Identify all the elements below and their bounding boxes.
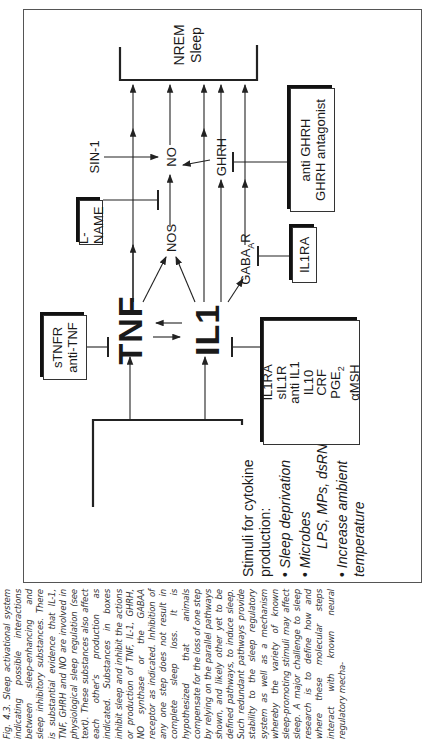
rotated-page: Fig. 4.3. Sleep activational system indi… xyxy=(0,0,431,745)
inhibitor-box-ghrh: anti GHRH GHRH antagonist xyxy=(290,88,335,212)
stimuli-title: Stimuli for cytokine production: xyxy=(240,427,274,577)
stimulus-microbe-types: LPS, MPs, dsRNA xyxy=(314,427,331,577)
inhibitor-box-tnf: sTNFR anti-TNF xyxy=(43,315,87,380)
stimulus-sleep-deprivation: • Sleep deprivation xyxy=(277,427,294,577)
stimulus-microbes: • Microbes xyxy=(297,427,314,577)
stimulus-temperature: • Increase ambient temperature xyxy=(334,427,368,577)
node-tnf: TNF xyxy=(111,295,150,364)
node-nos: NOS xyxy=(164,224,179,252)
inhibitor-box-lname: L-NAME xyxy=(79,200,103,245)
node-gaba-a-receptor: GABAAR xyxy=(238,233,256,285)
inhibitor-box-il1: IL1RA sIL1R anti IL1 IL10 CRF PGE2 αMSH xyxy=(263,320,360,445)
node-ghrh: GHRH xyxy=(214,138,229,176)
outcome-nrem-sleep: NREM Sleep xyxy=(171,24,205,65)
node-il1: IL1 xyxy=(188,304,227,356)
node-sin1: SIN-1 xyxy=(87,140,102,173)
node-no: NO xyxy=(164,147,179,167)
stimuli-block: Stimuli for cytokine production: • Sleep… xyxy=(240,427,368,577)
inhibitor-box-il1ra: IL1RA xyxy=(292,227,317,283)
